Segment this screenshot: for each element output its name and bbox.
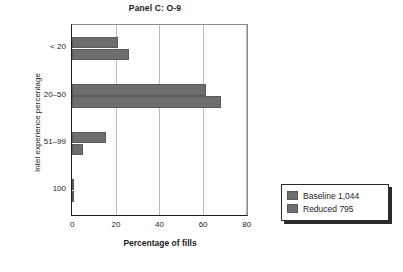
x-tick-label: 60 — [188, 220, 218, 229]
bar — [72, 84, 206, 96]
x-tick-label: 80 — [232, 220, 262, 229]
bar — [72, 179, 74, 191]
plot-area — [71, 24, 248, 216]
legend-item[interactable]: Reduced 795 — [287, 202, 383, 215]
plot-inner — [72, 25, 247, 215]
bar — [72, 49, 129, 61]
y-tick-label: 100 — [10, 184, 66, 193]
y-axis-tick-labels: < 2020–5051–99100 — [6, 24, 66, 216]
bar — [72, 37, 118, 49]
x-tick-label: 20 — [101, 220, 131, 229]
legend-swatch-icon — [287, 204, 298, 213]
y-tick-label: 51–99 — [10, 137, 66, 146]
legend-item[interactable]: Baseline 1,044 — [287, 189, 383, 202]
bar-group — [72, 72, 247, 119]
chart-figure: Panel C: O-9 Intel experience percentage… — [0, 0, 403, 272]
bar — [72, 132, 106, 144]
bar — [72, 191, 74, 203]
bar-group — [72, 167, 247, 214]
x-tick-label: 40 — [145, 220, 175, 229]
bar — [72, 96, 221, 108]
x-axis-tick-labels: 020406080 — [71, 220, 248, 234]
chart-title: Panel C: O-9 — [60, 3, 250, 13]
chart-legend: Baseline 1,044Reduced 795 — [281, 184, 389, 221]
bar-group — [72, 25, 247, 72]
x-axis-title: Percentage of fills — [62, 238, 258, 248]
legend-label: Baseline 1,044 — [303, 191, 359, 201]
legend-label: Reduced 795 — [303, 204, 354, 214]
y-tick-label: < 20 — [10, 42, 66, 51]
bar — [72, 144, 83, 156]
y-tick-label: 20–50 — [10, 90, 66, 99]
bar-group — [72, 120, 247, 167]
x-tick-label: 0 — [57, 220, 87, 229]
legend-swatch-icon — [287, 191, 298, 200]
